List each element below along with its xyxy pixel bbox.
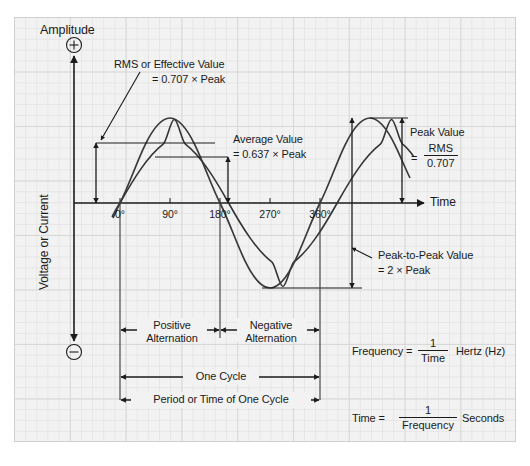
positive-alternation-line1: Positive xyxy=(132,319,212,332)
time-fraction-numerator: 1 xyxy=(399,404,457,416)
peak-fraction-denominator: 0.707 xyxy=(424,157,458,169)
x-tick-label-360: 360° xyxy=(303,208,337,221)
x-tick-label-90: 90° xyxy=(155,208,185,221)
time-unit: Seconds xyxy=(462,412,504,425)
y-axis-title: Amplitude xyxy=(40,24,95,37)
time-fraction-denominator: Frequency xyxy=(399,419,457,431)
negative-alternation-line2: Alternation xyxy=(231,332,311,345)
ac-waveform-figure: Amplitude Voltage or Current Time 0° 90°… xyxy=(0,0,530,466)
x-tick-label-270: 270° xyxy=(253,208,287,221)
negative-alternation-line1: Negative xyxy=(231,319,311,332)
peak-to-peak-annotation-line1: Peak-to-Peak Value xyxy=(378,249,473,262)
time-formula-label: Time = xyxy=(352,412,385,425)
x-axis-label: Time xyxy=(430,196,456,209)
average-annotation-line1: Average Value xyxy=(233,133,303,146)
frequency-unit: Hertz (Hz) xyxy=(456,345,505,358)
positive-alternation-line2: Alternation xyxy=(132,332,212,345)
frequency-fraction-denominator: Time xyxy=(418,352,448,364)
rms-annotation-line2: = 0.707 × Peak xyxy=(152,73,225,86)
x-tick-label-180: 180° xyxy=(203,208,237,221)
fraction-bar xyxy=(418,350,448,351)
peak-value-fraction: RMS 0.707 xyxy=(424,142,458,169)
peak-to-peak-leader-line xyxy=(352,248,372,258)
rms-leader-line xyxy=(101,72,140,140)
frequency-fraction-numerator: 1 xyxy=(418,337,448,349)
rms-annotation-line1: RMS or Effective Value xyxy=(114,58,225,71)
time-fraction: 1 Frequency xyxy=(399,404,457,431)
x-tick-label-0: 0° xyxy=(108,208,132,221)
one-cycle-label: One Cycle xyxy=(183,370,259,383)
peak-fraction-equals: = xyxy=(411,152,417,165)
fraction-bar xyxy=(399,417,457,418)
peak-fraction-numerator: RMS xyxy=(424,142,458,154)
fraction-bar xyxy=(424,155,458,156)
y-axis-label: Voltage or Current xyxy=(38,194,51,290)
frequency-fraction: 1 Time xyxy=(418,337,448,364)
period-label: Period or Time of One Cycle xyxy=(131,393,311,406)
average-annotation-line2: = 0.637 × Peak xyxy=(233,148,306,161)
peak-annotation-line1: Peak Value xyxy=(410,126,464,139)
peak-to-peak-annotation-line2: = 2 × Peak xyxy=(378,264,430,277)
frequency-formula-label: Frequency = xyxy=(352,345,412,358)
